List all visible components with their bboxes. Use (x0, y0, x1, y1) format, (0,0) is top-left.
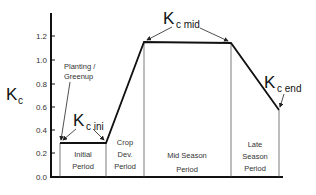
kc-curve-diagram: K c 1.2 1.0 0.8 0.6 0.4 0.2 0.0 Planting… (0, 0, 316, 195)
svg-text:0.0: 0.0 (36, 173, 48, 182)
svg-text:Period: Period (72, 162, 94, 171)
svg-text:Mid Season: Mid Season (167, 151, 207, 160)
svg-text:0.6: 0.6 (36, 103, 48, 112)
svg-text:1.0: 1.0 (36, 56, 48, 65)
svg-text:K: K (6, 85, 18, 104)
kc-mid-annotation: K c mid (147, 9, 228, 41)
period-label-initial: Initial Period (72, 150, 94, 171)
svg-text:0.2: 0.2 (36, 149, 48, 158)
svg-text:Period: Period (114, 162, 136, 171)
svg-text:Dev.: Dev. (118, 150, 133, 159)
svg-text:c end: c end (277, 83, 301, 94)
svg-text:Period: Period (244, 164, 266, 173)
svg-text:c: c (18, 95, 23, 106)
kc-end-annotation: K c end (264, 73, 301, 107)
svg-text:0.4: 0.4 (36, 126, 48, 135)
period-label-crop-dev: Crop Dev. Period (114, 138, 136, 171)
y-axis-label: K c (6, 85, 23, 106)
period-label-mid-season: Mid Season Period (167, 151, 207, 174)
svg-text:Late: Late (248, 140, 263, 149)
svg-text:0.8: 0.8 (36, 80, 48, 89)
svg-text:Greenup: Greenup (64, 72, 93, 81)
svg-text:K: K (73, 111, 85, 130)
svg-text:K: K (163, 9, 175, 28)
svg-text:Season: Season (242, 152, 267, 161)
svg-text:K: K (264, 73, 276, 92)
svg-text:Period: Period (176, 165, 198, 174)
svg-text:c mid: c mid (176, 19, 200, 30)
svg-text:Crop: Crop (117, 138, 133, 147)
period-label-late-season: Late Season Period (242, 140, 267, 173)
svg-text:Initial: Initial (74, 150, 92, 159)
y-tick-labels: 1.2 1.0 0.8 0.6 0.4 0.2 0.0 (36, 32, 48, 182)
svg-text:1.2: 1.2 (36, 32, 48, 41)
kc-ini-annotation: K c ini (63, 111, 104, 140)
svg-text:Planting /: Planting / (64, 62, 96, 71)
